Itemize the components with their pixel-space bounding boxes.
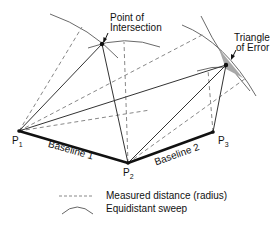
label-p2-sub: 2: [130, 173, 134, 180]
radius-p2-arc2: [124, 42, 128, 163]
label-p3-sub: 3: [225, 141, 229, 148]
intersection-label-line2: Intersection: [110, 23, 162, 33]
legend-arc-sample: [62, 207, 93, 214]
label-p1-sub: 1: [19, 141, 23, 148]
legend-arc-label: Equidistant sweep: [106, 203, 187, 214]
point-p2: [126, 161, 130, 165]
label-p3-letter: P: [218, 135, 225, 146]
sweep-arc-p1-intersection: [50, 14, 118, 58]
error-point-dot: [224, 63, 228, 67]
label-p2-letter: P: [123, 167, 130, 178]
legend-dashed-label: Measured distance (radius): [106, 190, 227, 201]
point-p3: [211, 130, 215, 134]
error-label-line2: of Error: [236, 43, 269, 53]
radius-p1-arc1: [19, 27, 82, 131]
label-p2: P2: [123, 168, 134, 179]
triangle-of-error: [219, 49, 243, 78]
label-p3: P3: [218, 136, 229, 147]
label-p1-letter: P: [12, 135, 19, 146]
point-p1: [17, 129, 21, 133]
intersection-arrow-head: [103, 37, 107, 43]
label-p1: P1: [12, 136, 23, 147]
line-p3-error: [213, 65, 226, 132]
